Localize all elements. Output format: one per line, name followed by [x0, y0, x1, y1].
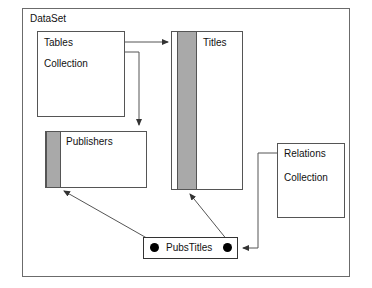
relation-endpoint-dot-right[interactable] [223, 243, 232, 252]
diagram-canvas: DataSet Tables Collection Titles Publish… [0, 0, 372, 288]
connector-pubstitles-to-titles [190, 194, 228, 241]
connector-tables-to-publishers [125, 52, 139, 125]
relation-endpoint-dot-left[interactable] [150, 243, 159, 252]
connector-pubstitles-to-publishers [64, 191, 152, 241]
connector-relations-to-pubstitles [243, 153, 277, 248]
pubstitles-label: PubsTitles [166, 242, 212, 254]
